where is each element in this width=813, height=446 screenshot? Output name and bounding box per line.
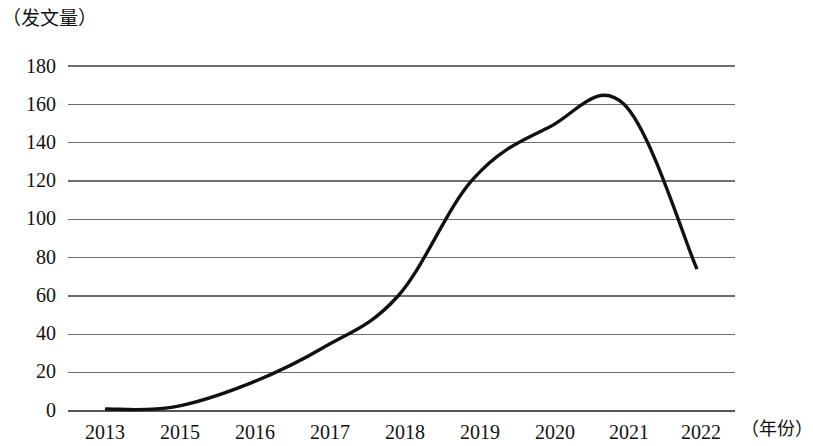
line-chart: （发文量） （年份） 180 160 140 120 100 80 60 40 … bbox=[0, 0, 813, 446]
plot-area bbox=[0, 0, 813, 446]
